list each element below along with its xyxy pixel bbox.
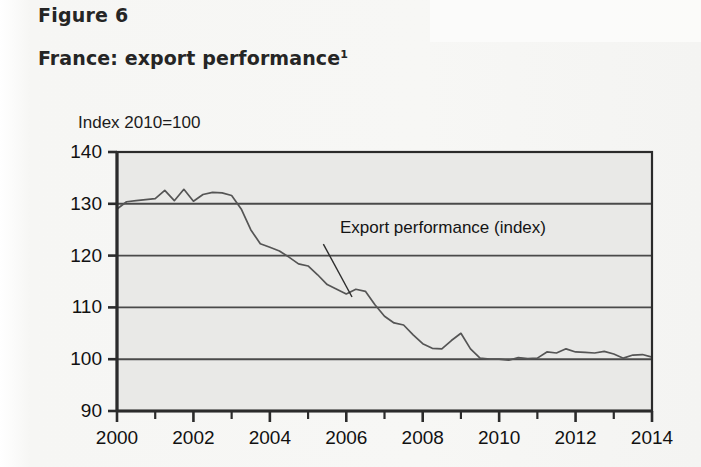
y-tick-label-140: 140 bbox=[56, 141, 102, 163]
x-tick-label-2000: 2000 bbox=[87, 427, 147, 449]
x-tick-label-2008: 2008 bbox=[393, 427, 453, 449]
line-chart: 90100110120130140 2000200220042006200820… bbox=[0, 0, 701, 467]
figure-page: Figure 6 France: export performance1 Ind… bbox=[0, 0, 701, 467]
x-axis-ticks bbox=[117, 411, 652, 422]
plot-area-background bbox=[117, 152, 652, 411]
series-annotation-label: Export performance (index) bbox=[340, 218, 546, 238]
x-tick-label-2006: 2006 bbox=[316, 427, 376, 449]
y-tick-label-110: 110 bbox=[56, 296, 102, 318]
x-tick-label-2002: 2002 bbox=[163, 427, 223, 449]
y-tick-label-120: 120 bbox=[56, 245, 102, 267]
y-tick-label-130: 130 bbox=[56, 193, 102, 215]
y-tick-label-100: 100 bbox=[56, 348, 102, 370]
x-tick-label-2012: 2012 bbox=[546, 427, 606, 449]
x-tick-label-2010: 2010 bbox=[469, 427, 529, 449]
x-tick-label-2014: 2014 bbox=[622, 427, 682, 449]
y-tick-label-90: 90 bbox=[56, 400, 102, 422]
x-tick-label-2004: 2004 bbox=[240, 427, 300, 449]
